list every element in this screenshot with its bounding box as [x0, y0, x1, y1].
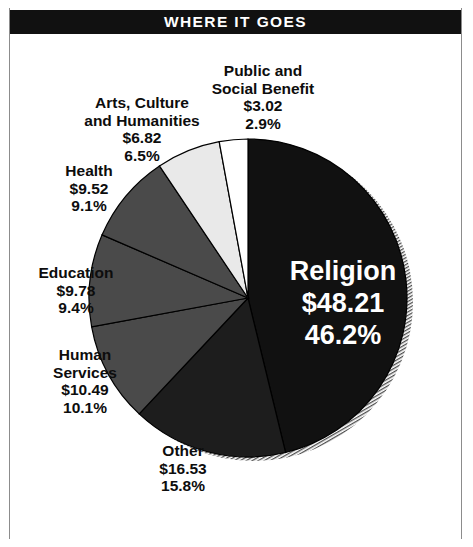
slice-label-education: Education $9.78 9.4%: [16, 264, 136, 317]
slice-label-percent: 9.4%: [16, 299, 136, 317]
slice-label-amount: $48.21: [258, 288, 428, 320]
slice-label-name-line1: Arts, Culture: [62, 94, 222, 112]
pie-chart: Religion $48.21 46.2% Public and Social …: [0, 34, 473, 539]
slice-label-percent: 46.2%: [258, 320, 428, 352]
slice-label-arts-culture-and-humanities: Arts, Culture and Humanities $6.82 6.5%: [62, 94, 222, 164]
slice-label-percent: 9.1%: [34, 197, 144, 215]
slice-label-amount: $10.49: [30, 381, 140, 399]
slice-label-name: Other: [128, 442, 238, 460]
slice-label-religion: Religion $48.21 46.2%: [258, 256, 428, 352]
slice-label-name: Health: [34, 162, 144, 180]
chart-page: WHERE IT GOES Religion $48.21 46.2% Publ…: [0, 0, 473, 547]
slice-label-name-line1: Public and: [188, 62, 338, 80]
slice-label-percent: 10.1%: [30, 399, 140, 417]
slice-label-name-line1: Human: [30, 346, 140, 364]
slice-label-health: Health $9.52 9.1%: [34, 162, 144, 215]
page-title: WHERE IT GOES: [164, 13, 307, 31]
slice-label-name-line2: and Humanities: [62, 112, 222, 130]
slice-label-other: Other $16.53 15.8%: [128, 442, 238, 495]
slice-label-amount: $16.53: [128, 460, 238, 478]
slice-label-name: Education: [16, 264, 136, 282]
slice-label-name: Religion: [258, 256, 428, 288]
slice-label-amount: $9.52: [34, 180, 144, 198]
slice-label-name-line2: Services: [30, 364, 140, 382]
title-band: WHERE IT GOES: [10, 10, 461, 34]
slice-label-amount: $9.78: [16, 282, 136, 300]
slice-label-percent: 15.8%: [128, 477, 238, 495]
slice-label-amount: $6.82: [62, 129, 222, 147]
slice-label-human-services: Human Services $10.49 10.1%: [30, 346, 140, 416]
